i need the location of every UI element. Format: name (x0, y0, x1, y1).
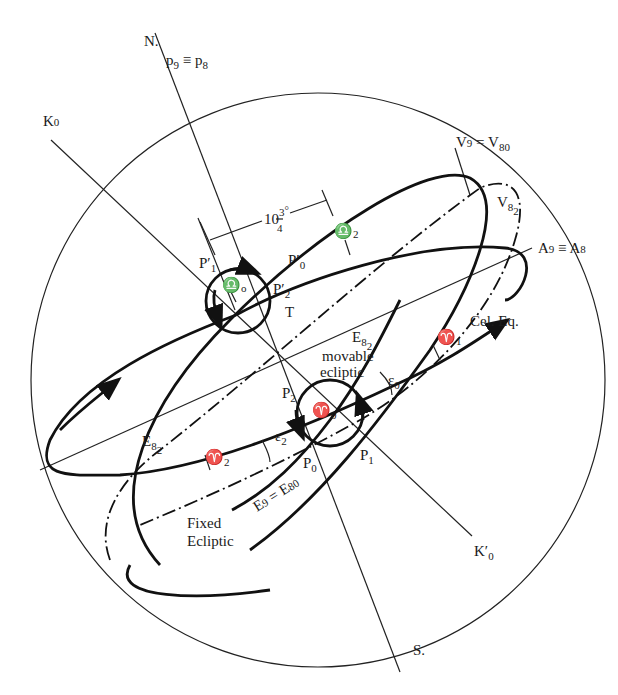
label-v9-v80: V9 = V80 (456, 134, 510, 153)
fixed-ecliptic-curve (106, 184, 521, 560)
dim-line (210, 221, 262, 240)
label-t: T (285, 304, 294, 320)
dim-right-tick (322, 190, 333, 216)
k-axis (51, 140, 472, 536)
label-a9-a8: A9 ≡ A8 (538, 240, 586, 256)
label-aries-1: ♈1 (437, 328, 462, 347)
dim-line-right (290, 200, 327, 213)
movable-ecliptic-lower (127, 565, 270, 596)
label-p0: P0 (303, 455, 317, 474)
label-libra-2: ♎2 (334, 222, 359, 240)
equator-arrow-left (60, 385, 112, 430)
celestial-equator-front (46, 315, 500, 475)
label-libra-0: ♎o (222, 276, 247, 294)
label-fixed: Fixed (187, 515, 222, 531)
label-north: N. (144, 33, 159, 49)
label-e82-lower: E82 (142, 433, 162, 456)
label-fixed-ecliptic: Ecliptic (187, 533, 234, 549)
label-k0: K0 (43, 113, 60, 129)
label-movable: movable (322, 348, 374, 364)
v9-pointer (455, 148, 470, 195)
label-k0-prime: K′0 (474, 543, 494, 562)
libra-2-tick (345, 240, 350, 255)
label-cel-eq: Cel. Eq. (470, 313, 519, 329)
libra-circle-arrow-top (230, 269, 250, 271)
label-epsilon-2: ε2 (275, 428, 287, 447)
label-v82: V82 (497, 194, 519, 217)
label-south: S. (413, 642, 425, 658)
movable-ecliptic-curve (134, 175, 487, 565)
celestial-sphere-outline (31, 93, 605, 667)
epsilon-2-arc (262, 440, 270, 462)
libra-circle-arrow (214, 290, 218, 318)
label-p2: P2 (282, 385, 296, 404)
diagram-canvas: N. p9 ≡ p8 K0 V9 = V80 V82 A9 ≡ A8 103° … (0, 0, 618, 695)
label-p1: P1 (360, 447, 374, 466)
label-p9-p8: p9 ≡ p8 (166, 52, 208, 71)
label-ecliptic: ecliptic (320, 364, 364, 380)
aries-1-tick (433, 345, 440, 360)
label-10-3-4-denominator: 4 (277, 222, 283, 234)
celestial-sphere-diagram: N. p9 ≡ p8 K0 V9 = V80 V82 A9 ≡ A8 103° … (0, 0, 618, 695)
